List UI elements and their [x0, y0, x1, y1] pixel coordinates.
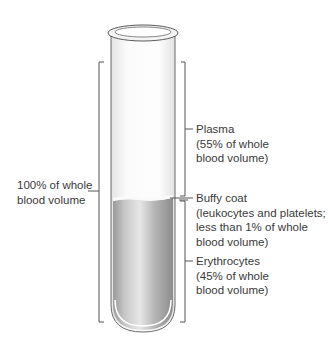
test-tube [108, 25, 178, 335]
tube-opening [115, 27, 171, 37]
plasma-line3: blood volume) [196, 151, 269, 166]
plasma-label: Plasma (55% of whole blood volume) [196, 122, 269, 166]
buffy-coat-line1: Buffy coat [196, 191, 326, 206]
buffy-coat-label: Buffy coat (leukocytes and platelets; le… [196, 191, 326, 249]
buffy-coat-line3: less than 1% of whole [196, 220, 326, 235]
erythrocytes-label: Erythrocytes (45% of whole blood volume) [196, 254, 269, 298]
whole-blood-label: 100% of whole blood volume [17, 178, 92, 207]
test-tube-diagram [0, 0, 328, 345]
erythrocytes-line2: (45% of whole [196, 269, 269, 284]
plasma-line1: Plasma [196, 122, 269, 137]
buffy-coat-line2: (leukocytes and platelets; [196, 206, 326, 221]
erythrocytes-bracket [180, 201, 193, 322]
plasma-line2: (55% of whole [196, 137, 269, 152]
erythrocytes-line1: Erythrocytes [196, 254, 269, 269]
buffy-coat-line4: blood volume) [196, 235, 326, 250]
plasma-bracket [180, 62, 193, 196]
whole-blood-line2: blood volume [17, 193, 92, 208]
whole-blood-line1: 100% of whole [17, 178, 92, 193]
erythrocyte-layer [113, 198, 173, 335]
erythrocytes-line3: blood volume) [196, 283, 269, 298]
